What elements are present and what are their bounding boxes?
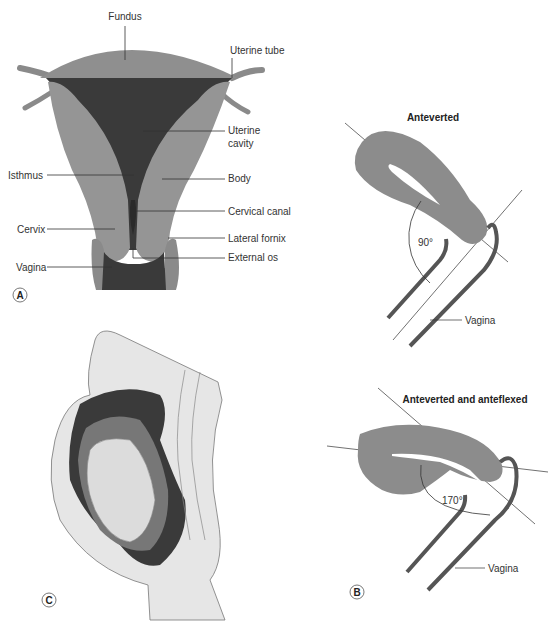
- right-uterine-tube: [232, 70, 262, 78]
- left-uterine-tube-lower: [25, 92, 52, 108]
- panel-b-letter: B: [353, 587, 360, 598]
- title-anteverted: Anteverted: [407, 112, 459, 123]
- label-isthmus: Isthmus: [8, 170, 43, 181]
- label-uterine-cavity-line1: Uterine: [228, 125, 261, 136]
- angle-label-170: 170°: [442, 495, 463, 506]
- panel-a-uterus-coronal: Fundus Uterine tube Uterine cavity Isthm…: [8, 11, 291, 302]
- label-vagina-b-top: Vagina: [465, 315, 496, 326]
- vagina-anterior-wall-b-top: [388, 239, 446, 318]
- panel-a-letter: A: [16, 290, 23, 301]
- title-anteverted-anteflexed: Anteverted and anteflexed: [402, 394, 527, 405]
- label-external-os: External os: [228, 252, 278, 263]
- label-body: Body: [228, 173, 251, 184]
- label-vagina-a: Vagina: [16, 262, 47, 273]
- panel-c-pregnant-sagittal: C: [42, 331, 225, 620]
- label-fundus: Fundus: [108, 11, 141, 22]
- fundus-shape: [40, 50, 238, 78]
- label-vagina-b-bottom: Vagina: [488, 563, 519, 574]
- figure-canvas: Fundus Uterine tube Uterine cavity Isthm…: [0, 0, 559, 625]
- panel-b-anteverted-anteflexed: Anteverted and anteflexed 170° Vagina B: [327, 388, 548, 599]
- label-uterine-cavity-line2: cavity: [228, 138, 254, 149]
- label-lateral-fornix: Lateral fornix: [228, 233, 286, 244]
- panel-c-letter: C: [45, 595, 52, 606]
- label-cervix: Cervix: [17, 224, 45, 235]
- angle-label-90: 90°: [418, 237, 433, 248]
- label-cervical-canal: Cervical canal: [228, 206, 291, 217]
- panel-b-anteverted: Anteverted 90° Vagina: [345, 112, 522, 346]
- label-uterine-tube: Uterine tube: [230, 45, 285, 56]
